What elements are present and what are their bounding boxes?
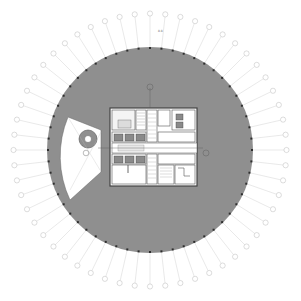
column xyxy=(85,229,87,231)
grid-bubble xyxy=(88,270,93,275)
column xyxy=(183,53,185,55)
grid-bubble xyxy=(283,132,288,137)
column xyxy=(50,126,52,128)
column xyxy=(193,241,195,243)
column xyxy=(172,50,174,52)
grid-bubble xyxy=(32,220,37,225)
column xyxy=(221,77,223,79)
column xyxy=(245,115,247,117)
column xyxy=(48,160,50,162)
column xyxy=(63,203,65,205)
column xyxy=(95,235,97,237)
grid-bubble xyxy=(207,270,212,275)
column xyxy=(149,47,151,49)
grid-bubble xyxy=(147,284,152,289)
grid-bubble xyxy=(132,283,137,288)
column xyxy=(251,149,253,151)
grid-bubble xyxy=(132,12,137,17)
grid-bubble xyxy=(24,88,29,93)
column xyxy=(126,50,128,52)
column xyxy=(250,160,252,162)
grid-bubble xyxy=(19,102,24,107)
grid-bubble xyxy=(62,254,67,259)
grid-bubble xyxy=(102,19,107,24)
grid-bubble xyxy=(163,283,168,288)
column xyxy=(160,48,162,50)
grid-bubble xyxy=(220,263,225,268)
column xyxy=(126,248,128,250)
grid-bubble xyxy=(244,51,249,56)
column xyxy=(53,115,55,117)
column xyxy=(160,250,162,252)
grid-bubble xyxy=(284,147,289,152)
column xyxy=(250,138,252,140)
column xyxy=(105,241,107,243)
grid-bubble xyxy=(233,254,238,259)
column xyxy=(183,245,185,247)
column xyxy=(193,57,195,59)
grid-bubble xyxy=(276,102,281,107)
grid-bubble xyxy=(178,14,183,19)
column xyxy=(85,69,87,71)
floor-plan: 8.8 xyxy=(0,0,301,301)
grid-bubble xyxy=(263,220,268,225)
column xyxy=(229,213,231,215)
grid-bubble xyxy=(163,12,168,17)
column xyxy=(221,221,223,223)
column xyxy=(241,105,243,107)
grid-bubble xyxy=(207,24,212,29)
column xyxy=(115,245,117,247)
building-core xyxy=(110,108,197,186)
grid-bubble xyxy=(233,41,238,46)
column xyxy=(50,172,52,174)
column xyxy=(213,229,215,231)
column xyxy=(229,85,231,87)
column xyxy=(63,95,65,97)
column xyxy=(115,53,117,55)
column xyxy=(213,69,215,71)
column xyxy=(77,221,79,223)
grid-bubble xyxy=(270,88,275,93)
column xyxy=(57,105,59,107)
top-label: 8.8 xyxy=(158,29,163,33)
grid-bubble xyxy=(41,233,46,238)
column xyxy=(69,213,71,215)
grid-bubble xyxy=(75,32,80,37)
column xyxy=(105,57,107,59)
column xyxy=(95,63,97,65)
grid-bubble xyxy=(75,263,80,268)
grid-bubble xyxy=(19,192,24,197)
column xyxy=(241,193,243,195)
grid-bubble xyxy=(14,117,19,122)
column xyxy=(138,48,140,50)
grid-bubble xyxy=(283,163,288,168)
column xyxy=(203,235,205,237)
column xyxy=(47,149,49,151)
grid-bubble xyxy=(220,32,225,37)
grid-bubble xyxy=(88,24,93,29)
column xyxy=(57,193,59,195)
grid-bubble xyxy=(117,14,122,19)
column xyxy=(248,126,250,128)
grid-bubble xyxy=(192,276,197,281)
column xyxy=(138,250,140,252)
column xyxy=(48,138,50,140)
column xyxy=(248,172,250,174)
column xyxy=(69,85,71,87)
grid-bubble xyxy=(24,207,29,212)
grid-bubble xyxy=(147,11,152,16)
grid-bubble xyxy=(102,276,107,281)
grid-bubble xyxy=(12,163,17,168)
grid-bubble xyxy=(51,244,56,249)
grid-bubble xyxy=(11,147,16,152)
grid-bubble xyxy=(14,178,19,183)
grid-bubble xyxy=(62,41,67,46)
grid-bubble xyxy=(263,75,268,80)
grid-bubble xyxy=(270,207,275,212)
grid-bubble xyxy=(192,19,197,24)
grid-bubble xyxy=(12,132,17,137)
column xyxy=(245,183,247,185)
column xyxy=(172,248,174,250)
grid-bubble xyxy=(32,75,37,80)
grid-bubble xyxy=(276,192,281,197)
